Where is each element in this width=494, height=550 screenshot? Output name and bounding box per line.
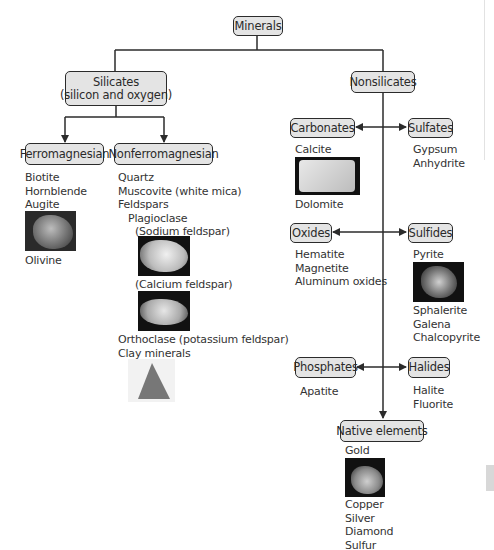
list-item: Silver — [345, 512, 393, 526]
node-label: Oxides — [292, 227, 330, 240]
list-item: Muscovite (white mica) — [118, 185, 241, 199]
clay-minerals-photo — [128, 359, 175, 402]
list-item: Augite — [25, 198, 87, 212]
halides-list: Halite Fluorite — [413, 384, 453, 411]
list-item: Biotite — [25, 171, 87, 185]
list-item: Apatite — [300, 385, 338, 399]
list-item: Anhydrite — [413, 157, 465, 171]
node-label: Ferromagnesian — [20, 148, 110, 161]
gold-photo — [345, 458, 385, 497]
list-item: Clay minerals — [118, 347, 289, 361]
calcite-photo — [295, 157, 360, 195]
list-item: Sphalerite — [413, 304, 480, 318]
node-sulfates: Sulfates — [408, 118, 453, 138]
node-nonsilicates: Nonsilicates — [351, 71, 415, 93]
node-label: Sulfides — [409, 227, 453, 240]
node-label: Native elements — [336, 425, 427, 438]
list-item: Dolomite — [295, 198, 343, 212]
list-item: Copper — [345, 498, 393, 512]
node-sulfides: Sulfides — [408, 223, 453, 243]
list-item: Hornblende — [25, 185, 87, 199]
list-item: Plagioclase — [118, 212, 241, 226]
native-elements-after-list: Copper Silver Diamond Sulfur — [345, 498, 393, 550]
node-ferromagnesian: Ferromagnesian — [25, 143, 104, 165]
carbonates-list: Calcite — [295, 143, 331, 157]
ferromagnesian-list: Biotite Hornblende Augite — [25, 171, 87, 212]
node-label: Halides — [408, 361, 449, 374]
phosphates-list: Apatite — [300, 385, 338, 399]
calcium-feldspar-label: (Calcium feldspar) — [135, 278, 232, 292]
list-item: Orthoclase (potassium feldspar) — [118, 333, 289, 347]
list-item: Quartz — [118, 171, 241, 185]
list-item: Fluorite — [413, 398, 453, 412]
node-label: Sulfates — [408, 122, 453, 135]
node-nonferromagnesian: Nonferromagnesian — [114, 143, 213, 165]
olivine-photo — [25, 211, 76, 251]
olivine-label: Olivine — [25, 254, 62, 268]
nonferromagnesian-list: Quartz Muscovite (white mica) Feldspars … — [118, 171, 241, 239]
node-sublabel: (silicon and oxygen) — [60, 89, 172, 102]
node-minerals: Minerals — [233, 16, 283, 36]
node-native-elements: Native elements — [340, 420, 424, 442]
list-item: Chalcopyrite — [413, 331, 480, 345]
list-item: Sulfur — [345, 539, 393, 550]
node-label: Minerals — [235, 20, 282, 33]
node-halides: Halides — [408, 357, 450, 378]
list-item: Gold — [345, 444, 370, 458]
sulfides-after-list: Sphalerite Galena Chalcopyrite — [413, 304, 480, 345]
pyrite-photo — [413, 262, 464, 302]
node-label: Carbonates — [290, 122, 354, 135]
node-label: Silicates — [93, 76, 139, 89]
list-item: Galena — [413, 318, 480, 332]
sulfides-list: Pyrite — [413, 248, 444, 262]
dolomite-label: Dolomite — [295, 198, 343, 212]
list-item: Calcite — [295, 143, 331, 157]
list-item: Feldspars — [118, 198, 241, 212]
list-item: Aluminum oxides — [295, 275, 387, 289]
native-elements-list: Gold — [345, 444, 370, 458]
node-carbonates: Carbonates — [290, 118, 355, 138]
list-item: Pyrite — [413, 248, 444, 262]
list-item: Gypsum — [413, 143, 465, 157]
list-item: Halite — [413, 384, 453, 398]
node-label: Nonferromagnesian — [108, 148, 218, 161]
node-oxides: Oxides — [290, 223, 332, 243]
sulfates-list: Gypsum Anhydrite — [413, 143, 465, 170]
sodium-feldspar-photo — [138, 236, 190, 276]
list-item: Diamond — [345, 525, 393, 539]
list-item: Olivine — [25, 254, 62, 268]
oxides-list: Hematite Magnetite Aluminum oxides — [295, 248, 387, 289]
node-label: Phosphates — [293, 361, 357, 374]
calcium-feldspar-photo — [138, 291, 190, 331]
list-item: Magnetite — [295, 262, 387, 276]
list-item: (Calcium feldspar) — [135, 278, 232, 292]
list-item: Hematite — [295, 248, 387, 262]
orthoclase-clay-list: Orthoclase (potassium feldspar) Clay min… — [118, 333, 289, 360]
node-silicates: Silicates (silicon and oxygen) — [65, 71, 167, 106]
node-label: Nonsilicates — [349, 76, 416, 89]
node-phosphates: Phosphates — [295, 357, 356, 378]
